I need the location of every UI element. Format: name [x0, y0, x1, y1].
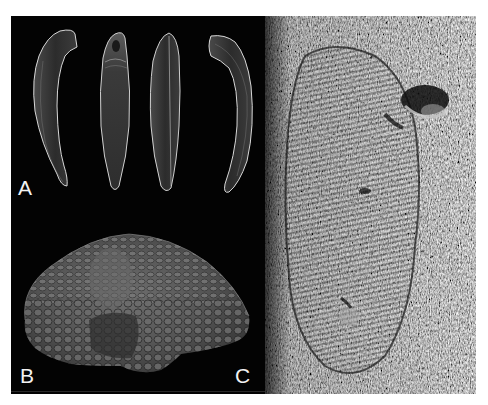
tooth-anterior — [100, 33, 129, 190]
tooth-lateral-left — [34, 30, 77, 186]
panel-label-c: C — [235, 365, 250, 386]
panel-label-b: B — [20, 365, 34, 386]
panel-a: A — [11, 16, 265, 208]
figure-plate: A — [11, 16, 476, 394]
tooth-posterior — [150, 33, 180, 191]
panel-b: B C — [11, 208, 265, 394]
panel-label-a: A — [18, 177, 32, 198]
panel-divider — [11, 391, 265, 392]
panel-c — [265, 16, 476, 394]
tooth-elements-image — [11, 16, 265, 208]
fossil-impression-image — [265, 16, 476, 394]
scaled-dome-image — [11, 208, 265, 394]
tooth-lateral-right — [209, 36, 252, 193]
